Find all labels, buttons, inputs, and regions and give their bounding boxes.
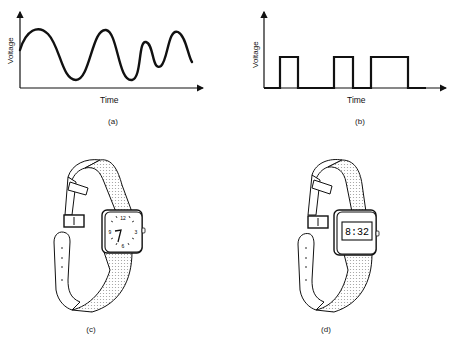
panel-d-digital-watch: 8:32 (d) <box>226 130 452 341</box>
panel-c-analog-watch: 12 3 6 9 (c) <box>0 130 226 341</box>
caption-b: (b) <box>350 117 370 126</box>
dial-6: 6 <box>122 243 125 249</box>
analog-waveform-chart <box>0 0 226 130</box>
caption-a: (a) <box>103 117 123 126</box>
digital-time: 8:32 <box>345 227 369 238</box>
digital-signal-pulses <box>264 57 426 88</box>
y-axis-label: Voltage <box>6 37 15 64</box>
analog-signal-curve <box>20 29 192 80</box>
panel-a-analog-signal: Voltage Time (a) <box>0 0 226 130</box>
x-axis-label: Time <box>100 95 119 105</box>
digital-watch-illustration: 8:32 <box>226 130 452 341</box>
dial-12: 12 <box>120 215 126 221</box>
dial-9: 9 <box>109 229 112 235</box>
panel-b-digital-signal: Voltage Time (b) <box>226 0 452 130</box>
caption-c: (c) <box>81 325 101 334</box>
dial-3: 3 <box>135 229 138 235</box>
x-axis-label: Time <box>347 95 366 105</box>
crown <box>376 231 379 236</box>
analog-watch-illustration: 12 3 6 9 <box>0 130 226 341</box>
caption-d: (d) <box>316 325 336 334</box>
y-axis-label: Voltage <box>251 41 260 68</box>
crown <box>142 228 145 233</box>
